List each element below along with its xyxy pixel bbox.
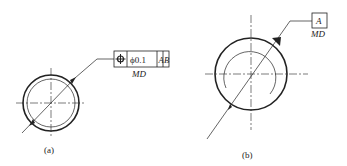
leader-line-a: [75, 59, 114, 78]
tolerance-value: ϕ0.1: [130, 55, 146, 65]
figure-b: [205, 13, 327, 139]
modifier-b: MD: [310, 29, 325, 39]
inner-arc-b: [224, 52, 276, 94]
diagram: ϕ0.1 A B MD (a) A MD (b): [0, 0, 347, 166]
gdt-drawing: ϕ0.1 A B MD (a) A MD (b): [0, 0, 347, 166]
caption-b: (b): [242, 150, 253, 160]
datum-label-b: A: [315, 16, 322, 26]
datum-b-label: B: [164, 55, 169, 65]
figure-a: [16, 51, 169, 138]
caption-a: (a): [44, 145, 54, 155]
position-icon: [116, 54, 126, 64]
modifier-a: MD: [131, 69, 146, 79]
